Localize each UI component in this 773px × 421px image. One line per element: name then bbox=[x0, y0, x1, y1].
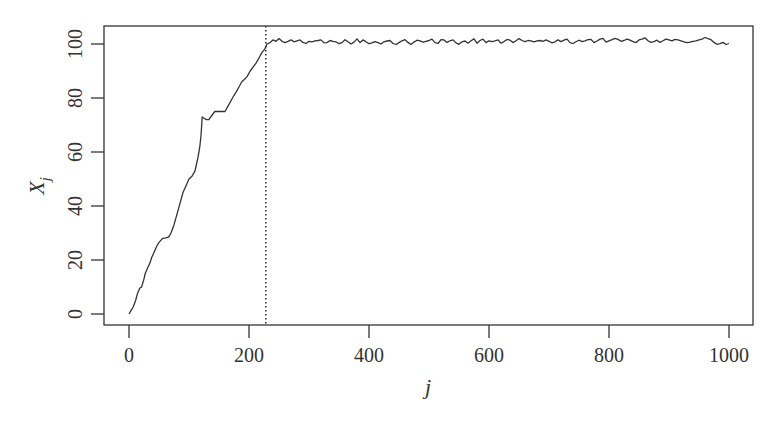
y-tick-label: 60 bbox=[64, 142, 86, 162]
x-tick-label: 600 bbox=[474, 344, 504, 366]
x-tick-label: 1000 bbox=[709, 344, 749, 366]
x-tick-label: 200 bbox=[234, 344, 264, 366]
y-tick-label: 80 bbox=[64, 88, 86, 108]
x-tick-label: 0 bbox=[124, 344, 134, 366]
y-tick-label: 40 bbox=[64, 196, 86, 216]
y-tick-label: 0 bbox=[64, 309, 86, 319]
x-tick-label: 800 bbox=[594, 344, 624, 366]
y-tick-label: 20 bbox=[64, 250, 86, 270]
chart-background bbox=[0, 0, 773, 421]
chart: 02004006008001000 020406080100 j Xj bbox=[0, 0, 773, 421]
y-tick-label: 100 bbox=[64, 29, 86, 59]
x-tick-label: 400 bbox=[354, 344, 384, 366]
